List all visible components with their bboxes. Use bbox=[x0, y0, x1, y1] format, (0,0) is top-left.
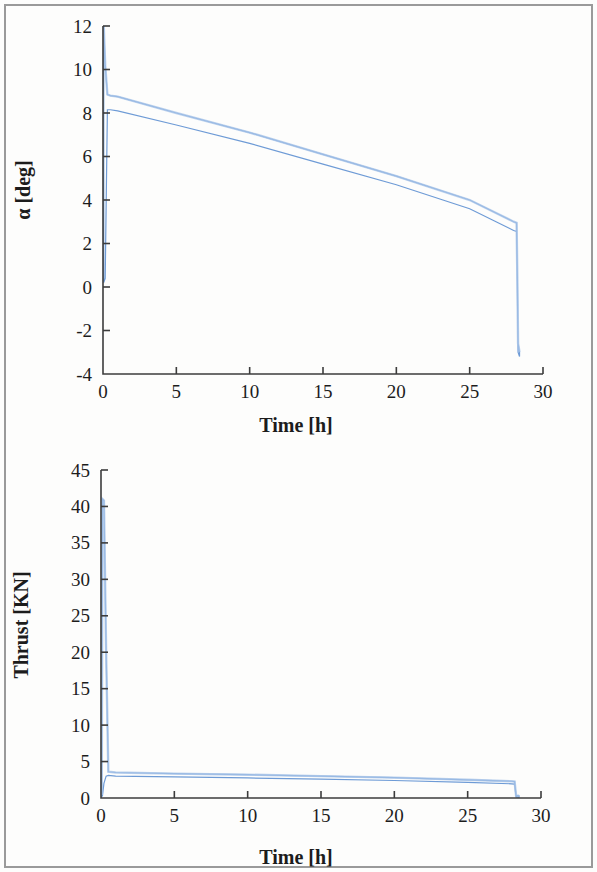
y-tick-label: 10 bbox=[73, 59, 92, 80]
y-tick-label: -2 bbox=[76, 320, 92, 341]
alpha-x-axis-title: Time [h] bbox=[259, 414, 333, 436]
x-tick-label: 20 bbox=[385, 805, 404, 826]
data-series-upper-edge bbox=[104, 26, 520, 352]
y-tick-label: 20 bbox=[71, 642, 90, 663]
x-tick-label: 25 bbox=[460, 381, 479, 402]
x-tick-label: 5 bbox=[172, 381, 182, 402]
alpha-tick-labels: -4-2024681012051015202530 bbox=[73, 16, 553, 403]
chart-thrust-vs-time: 051015202530354045051015202530 Time [h] … bbox=[0, 440, 597, 872]
thrust-plot-area bbox=[102, 499, 519, 797]
x-tick-label: 10 bbox=[238, 805, 257, 826]
y-tick-label: 10 bbox=[71, 715, 90, 736]
x-tick-label: 20 bbox=[387, 381, 406, 402]
x-tick-label: 15 bbox=[314, 381, 333, 402]
x-tick-label: 0 bbox=[98, 381, 108, 402]
alpha-plot-area bbox=[104, 26, 520, 357]
x-tick-label: 10 bbox=[240, 381, 259, 402]
y-tick-label: 5 bbox=[81, 751, 91, 772]
x-tick-label: 30 bbox=[532, 805, 551, 826]
y-tick-label: 4 bbox=[83, 190, 93, 211]
thrust-axes bbox=[101, 470, 541, 798]
y-tick-label: 0 bbox=[83, 277, 93, 298]
x-tick-label: 25 bbox=[458, 805, 477, 826]
data-series-band bbox=[102, 499, 519, 797]
chart-alpha-svg: -4-2024681012051015202530 Time [h] α [de… bbox=[0, 0, 597, 440]
x-tick-label: 5 bbox=[170, 805, 180, 826]
y-tick-label: -4 bbox=[76, 364, 92, 385]
y-tick-label: 2 bbox=[83, 233, 93, 254]
y-tick-label: 35 bbox=[71, 532, 90, 553]
y-tick-label: 8 bbox=[83, 103, 93, 124]
alpha-axes bbox=[103, 26, 543, 374]
y-tick-label: 15 bbox=[71, 678, 90, 699]
chart-thrust-svg: 051015202530354045051015202530 Time [h] … bbox=[0, 440, 597, 872]
y-tick-label: 30 bbox=[71, 569, 90, 590]
thrust-x-axis-title: Time [h] bbox=[259, 846, 333, 868]
y-tick-label: 40 bbox=[71, 496, 90, 517]
y-tick-label: 45 bbox=[71, 460, 90, 481]
chart-alpha-vs-time: -4-2024681012051015202530 Time [h] α [de… bbox=[0, 0, 597, 440]
y-tick-label: 0 bbox=[81, 788, 91, 809]
thrust-y-axis-title: Thrust [KN] bbox=[10, 571, 32, 678]
y-tick-label: 25 bbox=[71, 605, 90, 626]
thrust-tick-labels: 051015202530354045051015202530 bbox=[71, 460, 551, 827]
y-tick-label: 6 bbox=[83, 146, 93, 167]
figure-page: -4-2024681012051015202530 Time [h] α [de… bbox=[0, 0, 597, 872]
x-tick-label: 15 bbox=[312, 805, 331, 826]
data-series-band bbox=[104, 26, 520, 357]
x-tick-label: 0 bbox=[96, 805, 106, 826]
x-tick-label: 30 bbox=[534, 381, 553, 402]
data-series-upper-edge bbox=[102, 499, 519, 796]
y-tick-label: 12 bbox=[73, 16, 92, 37]
alpha-y-axis-title: α [deg] bbox=[12, 160, 35, 219]
